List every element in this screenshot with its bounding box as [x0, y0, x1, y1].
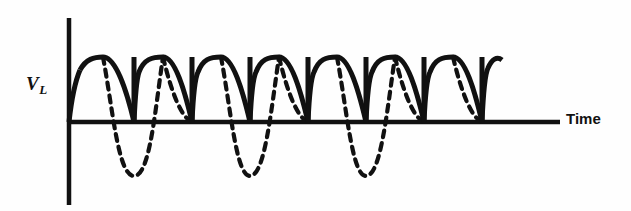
axis-group: [69, 18, 560, 205]
truncated-final-hump: [482, 58, 502, 122]
figure-root: VL Time: [0, 0, 631, 211]
hump-3: [192, 57, 250, 122]
y-axis-label: VL: [26, 74, 47, 96]
y-axis-label-subscript: L: [39, 82, 47, 97]
y-axis-label-symbol: V: [26, 73, 39, 94]
hump-5: [308, 57, 366, 122]
solid-conducting-waveform: [69, 57, 502, 122]
x-axis-label: Time: [566, 111, 601, 126]
waveform-plot: [0, 0, 631, 211]
